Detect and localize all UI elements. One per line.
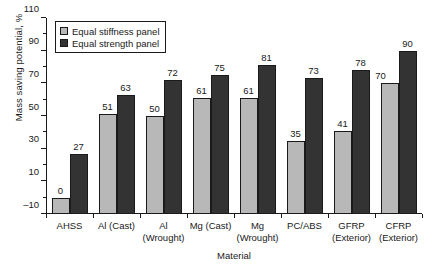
x-axis-tick-label: PC/ABS xyxy=(287,220,322,232)
x-axis-tick-label: Al (Cast) xyxy=(98,220,135,232)
x-axis-tick-label: Mg(Wrought) xyxy=(236,220,278,243)
y-axis-tick-label: 70 xyxy=(28,67,39,78)
bar-equal-strength xyxy=(70,154,88,214)
bar-equal-strength xyxy=(117,95,135,214)
bar-value-label: 72 xyxy=(158,67,188,78)
bar-equal-stiffness xyxy=(381,83,399,214)
bar-group: 6175 xyxy=(193,18,229,214)
y-axis-minor-tick xyxy=(43,164,46,165)
legend-swatch-stiffness-icon xyxy=(60,27,68,35)
x-axis-separator-tick xyxy=(93,214,94,218)
bar-equal-stiffness xyxy=(146,116,164,214)
y-axis-minor-tick xyxy=(43,131,46,132)
legend-item-equal-stiffness: Equal stiffness panel xyxy=(60,25,160,37)
x-axis-tick-label: AHSS xyxy=(57,220,83,232)
bar-value-label: 78 xyxy=(346,57,376,68)
y-axis-tick xyxy=(41,82,46,83)
bar-equal-strength xyxy=(305,78,323,214)
x-axis-tick-label: Mg (Cast) xyxy=(190,220,232,232)
bar-equal-strength xyxy=(164,80,182,214)
bar-equal-stiffness xyxy=(287,141,305,215)
y-axis-title: Mass saving potential, % xyxy=(13,0,24,148)
y-axis-tick-label: 50 xyxy=(28,100,39,111)
x-axis-end-tick xyxy=(422,214,423,218)
y-axis-tick-label: 90 xyxy=(28,35,39,46)
x-axis-title: Material xyxy=(46,250,422,261)
bar-value-label: 63 xyxy=(111,82,141,93)
x-axis-separator-tick xyxy=(234,214,235,218)
bar-group: 6181 xyxy=(240,18,276,214)
y-axis-tick xyxy=(41,148,46,149)
x-axis-separator-tick xyxy=(281,214,282,218)
x-axis-tick-label: CFRP(Exterior) xyxy=(379,220,418,243)
y-axis-tick xyxy=(41,50,46,51)
bar-chart: Mass saving potential, % –10103050709011… xyxy=(0,0,432,273)
legend-label-stiffness: Equal stiffness panel xyxy=(72,26,160,37)
x-axis-tick-label: Al(Wrought) xyxy=(142,220,184,243)
chart-legend: Equal stiffness panel Equal strength pan… xyxy=(55,21,166,53)
y-axis-minor-tick xyxy=(43,99,46,100)
bar-value-label: 27 xyxy=(64,141,94,152)
y-axis-tick xyxy=(41,180,46,181)
y-axis-minor-tick xyxy=(43,33,46,34)
y-axis-tick-label: 10 xyxy=(28,165,39,176)
bar-equal-stiffness xyxy=(334,131,352,214)
x-axis-end-tick xyxy=(46,214,47,218)
x-axis-separator-tick xyxy=(187,214,188,218)
bar-equal-strength xyxy=(211,75,229,214)
y-axis-minor-tick xyxy=(43,197,46,198)
x-axis-separator-tick xyxy=(375,214,376,218)
bar-equal-strength xyxy=(258,65,276,214)
bar-equal-strength xyxy=(352,70,370,214)
bar-value-label: 81 xyxy=(252,52,282,63)
bar-value-label: 90 xyxy=(393,38,423,49)
bar-equal-stiffness xyxy=(99,114,117,214)
y-axis-tick xyxy=(41,17,46,18)
legend-swatch-strength-icon xyxy=(60,39,68,47)
bar-equal-stiffness xyxy=(193,98,211,214)
y-axis-minor-tick xyxy=(43,66,46,67)
y-axis-tick xyxy=(41,115,46,116)
y-axis-tick-label: 110 xyxy=(24,2,39,13)
bar-equal-strength xyxy=(399,51,417,214)
legend-item-equal-strength: Equal strength panel xyxy=(60,37,160,49)
bar-value-label: 73 xyxy=(299,65,329,76)
bar-value-label: 75 xyxy=(205,62,235,73)
bar-group: 4178 xyxy=(334,18,370,214)
bar-equal-stiffness xyxy=(240,98,258,214)
bar-equal-stiffness xyxy=(52,198,70,214)
y-axis-tick-label: 30 xyxy=(28,133,39,144)
x-axis-separator-tick xyxy=(328,214,329,218)
x-axis-separator-tick xyxy=(140,214,141,218)
x-axis-tick-label: GFRP(Exterior) xyxy=(332,220,371,243)
bar-group: 3573 xyxy=(287,18,323,214)
legend-label-strength: Equal strength panel xyxy=(72,38,159,49)
bar-value-label: 70 xyxy=(366,70,396,81)
y-axis-tick-label: –10 xyxy=(23,198,39,209)
bar-group: 7090 xyxy=(381,18,417,214)
